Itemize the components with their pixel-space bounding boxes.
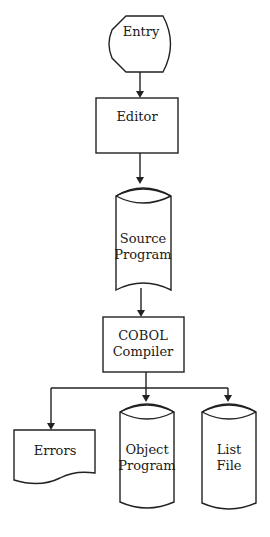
arrowhead-icon	[142, 395, 150, 402]
editor-process-shape	[96, 98, 178, 153]
errors-label: Errors	[34, 443, 77, 458]
editor-node: Editor	[96, 98, 178, 153]
compiler-label-line-1: COBOL	[118, 328, 168, 343]
entry-node: Entry	[109, 16, 171, 72]
source-label-line-1: Source	[120, 231, 167, 246]
errors-node: Errors	[14, 430, 95, 484]
list-label-line-2: File	[216, 458, 241, 473]
entry-label: Entry	[123, 24, 160, 39]
object-label-line-2: Program	[118, 458, 175, 473]
arrowhead-icon	[136, 177, 144, 184]
object-label-line-1: Object	[125, 442, 169, 457]
list-file-node: List File	[202, 404, 256, 509]
flowchart-canvas: Entry Editor Source Program COBOL Compil…	[0, 0, 270, 537]
compiler-node: COBOL Compiler	[103, 317, 184, 372]
compiler-label-line-2: Compiler	[113, 344, 174, 359]
object-program-node: Object Program	[118, 404, 175, 508]
arrowhead-icon	[137, 310, 145, 317]
edge-source-compiler	[137, 288, 145, 317]
edge-editor-source	[136, 153, 144, 184]
arrowhead-icon	[47, 423, 55, 430]
arrowhead-icon	[136, 91, 144, 98]
list-label-line-1: List	[217, 442, 242, 457]
edge-entry-editor	[136, 72, 144, 98]
editor-label: Editor	[116, 109, 158, 124]
arrowhead-icon	[224, 395, 232, 402]
source-label-line-2: Program	[114, 247, 171, 262]
source-program-node: Source Program	[114, 188, 171, 290]
